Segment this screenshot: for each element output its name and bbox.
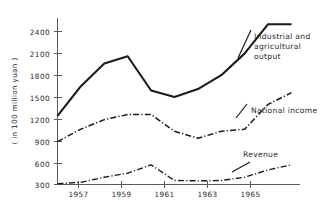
y-tick-label-2100: 2100	[30, 50, 50, 59]
series-revenue	[58, 165, 292, 184]
x-tick-label-1959: 1959	[111, 190, 131, 199]
y-tick-label-900: 900	[35, 138, 50, 147]
x-tick-label-1965: 1965	[240, 190, 260, 199]
y-tick-label-1200: 1200	[30, 116, 50, 125]
y-tick-label-1500: 1500	[30, 94, 50, 103]
y-tick-label-2400: 2400	[30, 28, 50, 37]
y-tick-label-300: 300	[35, 181, 50, 190]
y-tick-label-1800: 1800	[30, 72, 50, 81]
annotation-revenue: Revenue	[243, 150, 278, 159]
annotation-industrial-line3: output	[254, 52, 281, 61]
annotation-national-income: National income	[251, 106, 317, 115]
y-axis-tick-labels: 2400 2100 1800 1500 1200 900 600 300	[30, 28, 50, 190]
series-national-income	[58, 93, 292, 142]
y-tick-label-600: 600	[35, 160, 50, 169]
x-axis-tick-labels: 1957 1959 1961 1963 1965	[68, 190, 260, 199]
line-chart: 2400 2100 1800 1500 1200 900 600 300 195…	[0, 0, 332, 212]
x-tick-label-1963: 1963	[197, 190, 217, 199]
x-tick-label-1961: 1961	[154, 190, 174, 199]
annotation-leader-national-income	[236, 104, 247, 118]
x-tick-label-1957: 1957	[68, 190, 88, 199]
chart-container: 2400 2100 1800 1500 1200 900 600 300 195…	[0, 0, 332, 212]
y-axis-title: ( in 100 million yuan )	[10, 57, 19, 144]
annotation-leader-revenue	[232, 162, 250, 172]
annotation-industrial-line1: Industrial and	[254, 32, 311, 41]
annotation-industrial-line2: agricultural	[254, 42, 301, 51]
annotation-industrial-agricultural-output: Industrial and agricultural output	[254, 32, 311, 61]
